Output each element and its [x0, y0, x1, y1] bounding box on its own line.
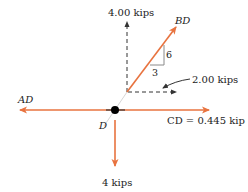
bd-label: BD: [174, 15, 190, 26]
vertical-component-label: 4.00 kips: [108, 7, 154, 18]
node-d: [111, 106, 119, 114]
triangle-run-label: 3: [152, 67, 158, 78]
node-label: D: [98, 120, 107, 131]
ad-label: AD: [17, 94, 33, 105]
free-body-diagram: 4.00 kips BD 6 3 2.00 kips AD D CD = 0.4…: [0, 0, 248, 192]
diagram-canvas: 4.00 kips BD 6 3 2.00 kips AD D CD = 0.4…: [0, 0, 248, 192]
horizontal-component-label: 2.00 kips: [192, 74, 238, 85]
triangle-rise-label: 6: [166, 49, 172, 60]
cd-label: CD = 0.445 kip: [167, 115, 245, 126]
slope-triangle: [150, 45, 164, 65]
pointer-arrow: [163, 79, 190, 88]
load-label: 4 kips: [102, 177, 132, 188]
